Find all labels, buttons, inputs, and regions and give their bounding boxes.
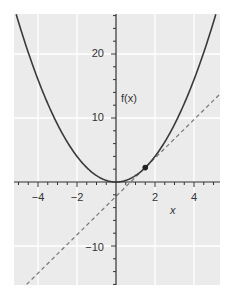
chart-svg: −4 −2 2 4 20 10 −10 f(x) x — [0, 0, 225, 297]
x-tick-label: 2 — [152, 191, 158, 203]
x-tick-label: −2 — [71, 191, 84, 203]
x-tick-label: 4 — [191, 191, 197, 203]
tangent-point-marker — [142, 165, 148, 171]
x-axis-label: x — [169, 204, 176, 216]
y-tick-label: 10 — [92, 111, 104, 123]
y-axis-label: f(x) — [121, 92, 137, 104]
x-tick-label: −4 — [32, 191, 45, 203]
plot-background — [14, 14, 220, 285]
y-tick-label: −10 — [85, 241, 104, 253]
y-tick-label: 20 — [92, 47, 104, 59]
